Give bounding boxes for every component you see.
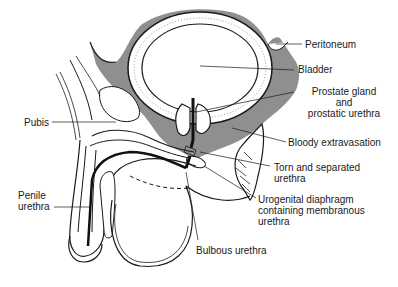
scrotum-inner [115,204,188,263]
abdominal-wall-line-4 [60,72,80,138]
label-prostate-line1: Prostate gland [296,86,392,97]
label-bulbous-urethra: Bulbous urethra [196,245,267,256]
label-penile-line2: urethra [18,201,50,212]
label-penile-line1: Penile [18,190,50,201]
label-bloody-extravasation: Bloody extravasation [288,137,381,148]
dashed-boundary [130,176,190,189]
prostate-lobe-left [176,104,190,135]
label-urogenital-line2: containing membranous [258,205,365,216]
penile-shaft-mid [78,146,96,232]
label-urogenital-diaphragm: Urogenital diaphragm containing membrano… [258,194,365,227]
abdominal-wall-line-1 [70,60,92,120]
label-torn-line2: urethra [274,173,360,184]
label-penile-urethra: Penile urethra [18,190,50,212]
abdominal-wall-line-3 [56,74,76,140]
label-pubis: Pubis [24,117,49,128]
scrotum [111,186,193,266]
label-prostate-line2: and [296,97,392,108]
label-urogenital-line1: Urogenital diaphragm [258,194,365,205]
label-urogenital-line3: urethra [258,216,365,227]
label-peritoneum: Peritoneum [305,39,356,50]
label-bladder: Bladder [298,64,332,75]
corpus-cavernosum-inner [100,172,115,238]
label-prostate: Prostate gland and prostatic urethra [296,86,392,119]
label-torn-line1: Torn and separated [274,162,360,173]
label-torn-urethra: Torn and separated urethra [274,162,360,184]
label-prostate-line3: prostatic urethra [296,108,392,119]
